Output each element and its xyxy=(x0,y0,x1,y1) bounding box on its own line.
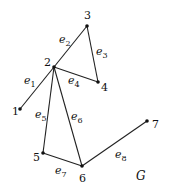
graph-name-label: G xyxy=(136,169,146,183)
vertex-7 xyxy=(145,119,149,123)
edges xyxy=(20,26,147,166)
edge-label-e5: e5 xyxy=(35,108,47,123)
edge-label-e3: e3 xyxy=(96,45,108,60)
vertices xyxy=(18,24,149,168)
edge-label-e6: e6 xyxy=(71,110,83,125)
edge-label-e4: e4 xyxy=(68,74,80,89)
graph-diagram: e1e2e3e4e5e6e7e81234567 G xyxy=(0,0,169,188)
edge-e7 xyxy=(43,153,82,166)
vertex-2 xyxy=(52,65,56,69)
vertex-label-4: 4 xyxy=(101,81,108,94)
edge-label-e8: e8 xyxy=(115,148,127,163)
edge-label-e1: e1 xyxy=(24,74,36,89)
vertex-label-2: 2 xyxy=(44,56,51,69)
vertex-label-6: 6 xyxy=(79,172,86,185)
vertex-label-5: 5 xyxy=(33,151,40,164)
vertex-4 xyxy=(96,80,100,84)
vertex-label-7: 7 xyxy=(152,118,159,131)
edge-label-e2: e2 xyxy=(59,33,71,48)
edge-label-e7: e7 xyxy=(55,164,67,179)
vertex-label-3: 3 xyxy=(84,9,91,22)
vertex-6 xyxy=(80,164,84,168)
vertex-label-1: 1 xyxy=(12,105,19,118)
vertex-3 xyxy=(85,24,89,28)
edge-e5 xyxy=(43,67,54,153)
vertex-5 xyxy=(41,151,45,155)
labels: e1e2e3e4e5e6e7e81234567 xyxy=(12,9,159,185)
